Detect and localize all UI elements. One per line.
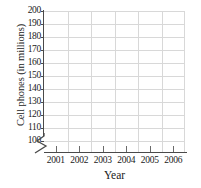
plot-right-border: [184, 11, 185, 152]
vertical-gridline: [115, 11, 116, 152]
x-axis-title: Year: [44, 169, 185, 182]
y-axis-tick-mark: [41, 63, 44, 64]
x-axis-tick-label: 2006: [156, 155, 190, 166]
y-axis-tick-mark: [41, 128, 44, 129]
vertical-gridline: [91, 11, 92, 152]
y-axis-tick-mark: [41, 102, 44, 103]
y-axis-tick-label: 150: [14, 70, 41, 80]
x-axis-tick-mark: [150, 146, 151, 152]
plot-area: [44, 11, 185, 152]
y-axis-line: [43, 10, 44, 136]
y-axis-tick-label: 190: [14, 18, 41, 28]
x-axis-tick-mark: [173, 146, 174, 152]
y-axis-tick-label: 110: [14, 122, 41, 132]
y-axis-tick-mark: [41, 11, 44, 12]
y-axis-tick-labels: 200190180170160150140130120110100: [14, 6, 41, 140]
y-axis-tick-mark: [41, 89, 44, 90]
y-axis-tick-mark: [41, 24, 44, 25]
vertical-gridline: [162, 11, 163, 152]
axis-break-zigzag-icon: [33, 133, 49, 154]
y-axis-tick-label: 200: [14, 5, 41, 15]
y-axis-tick-label: 140: [14, 83, 41, 93]
x-axis-tick-labels: 200120022003200420052006: [0, 155, 201, 167]
x-axis-tick-mark: [103, 146, 104, 152]
y-axis-tick-label: 180: [14, 31, 41, 41]
chart-container: Cell phones (in millions) 20019018017016…: [0, 0, 201, 188]
y-axis-tick-mark: [41, 115, 44, 116]
y-axis-tick-label: 120: [14, 109, 41, 119]
x-axis-tick-mark: [126, 146, 127, 152]
x-axis-tick-mark: [79, 146, 80, 152]
y-axis-tick-mark: [41, 76, 44, 77]
y-axis-tick-mark: [41, 141, 44, 142]
y-axis-tick-label: 130: [14, 96, 41, 106]
vertical-gridline: [68, 11, 69, 152]
x-axis-line: [44, 152, 187, 153]
y-axis-tick-mark: [41, 50, 44, 51]
y-axis-tick-label: 160: [14, 57, 41, 67]
vertical-gridline: [138, 11, 139, 152]
y-axis-tick-mark: [41, 37, 44, 38]
x-axis-tick-mark: [56, 146, 57, 152]
y-axis-tick-label: 170: [14, 44, 41, 54]
